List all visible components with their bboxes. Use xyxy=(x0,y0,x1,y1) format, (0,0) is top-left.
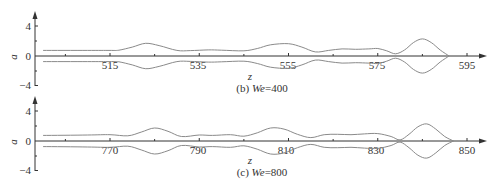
y-tick-label: 4 xyxy=(26,20,32,32)
figure: 4 0 −4 a 515 535 555 575 595 z (b) We=40… xyxy=(0,0,494,185)
x-tick-label: 575 xyxy=(369,59,386,71)
x-axis-arrow-icon xyxy=(479,139,487,144)
y-tick-label: −4 xyxy=(19,79,31,91)
y-tick-label: 0 xyxy=(26,50,32,62)
panel-c: 4 0 −4 a 770 790 810 830 850 z (c) We=80… xyxy=(7,96,487,179)
y-axis-arrow-icon xyxy=(33,96,38,104)
panel-b: 4 0 −4 a 515 535 555 575 595 z (b) We=40… xyxy=(7,11,487,95)
x-tick-label: 850 xyxy=(459,144,476,156)
x-tick-label: 770 xyxy=(102,144,119,156)
x-tick-label: 515 xyxy=(102,59,119,71)
panel-caption: (c) We=800 xyxy=(237,166,288,179)
panel-caption: (b) We=400 xyxy=(236,82,288,95)
x-tick-label: 555 xyxy=(280,59,297,71)
y-tick-label: 4 xyxy=(26,105,32,117)
x-axis-label: z xyxy=(247,70,253,82)
upper-interface-curve xyxy=(43,124,454,141)
x-tick-label: 595 xyxy=(459,59,476,71)
x-axis-label: z xyxy=(247,154,253,166)
y-axis-label: a xyxy=(7,139,19,145)
y-tick-label: 0 xyxy=(26,135,32,147)
y-tick-label: −4 xyxy=(19,164,31,176)
x-axis-arrow-icon xyxy=(479,54,487,59)
y-axis-arrow-icon xyxy=(33,11,38,19)
x-tick-label: 535 xyxy=(190,59,207,71)
upper-interface-curve xyxy=(43,39,449,56)
y-axis-label: a xyxy=(7,54,19,60)
x-tick-label: 830 xyxy=(368,144,385,156)
